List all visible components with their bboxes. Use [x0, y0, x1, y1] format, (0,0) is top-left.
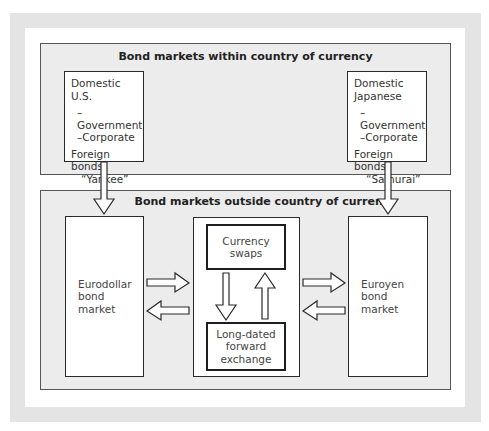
arrow-up-forward-to-swaps-icon	[0, 0, 489, 431]
